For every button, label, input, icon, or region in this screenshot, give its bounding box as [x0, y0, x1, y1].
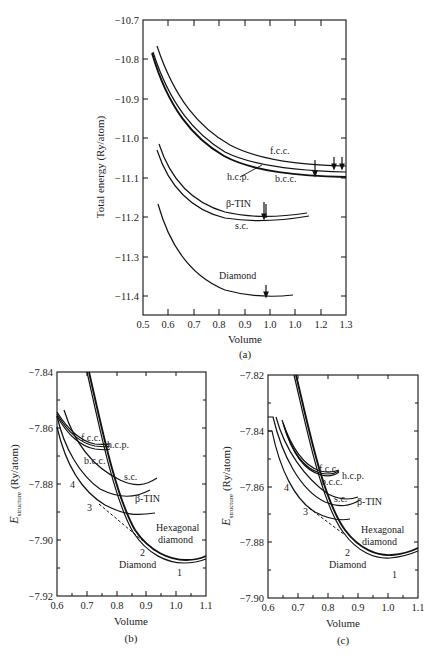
svg-text:−10.9: −10.9 [115, 94, 139, 105]
svg-text:−7.92: −7.92 [29, 591, 53, 602]
svg-text:1.3: 1.3 [339, 319, 352, 330]
label-1-b: 1 [177, 567, 182, 578]
label-hcp-a: h.c.p. [227, 171, 249, 182]
svg-text:0.8: 0.8 [110, 600, 123, 611]
svg-text:−7.86: −7.86 [240, 482, 264, 493]
figure: −10.7 −10.8 −10.9 −11.0 −11.1 −11.2 −11.… [0, 0, 438, 656]
svg-text:−7.84: −7.84 [240, 426, 265, 437]
label-hexagonal-b: Hexagonal [156, 522, 200, 533]
x-axis-title-c: Volume [326, 617, 360, 629]
x-tick-labels-a: 0.5 0.6 0.7 0.8 0.9 1.0 1.0 1.2 1.3 [136, 319, 352, 330]
svg-text:−11.3: −11.3 [115, 252, 139, 263]
label-1-c: 1 [392, 569, 397, 580]
label-btin-b: β-TIN [135, 493, 160, 504]
x-axis-title-b: Volume [114, 615, 148, 627]
x-tick-labels-b: 0.6 0.7 0.8 0.9 1.0 1.1 [50, 600, 212, 611]
svg-text:0.7: 0.7 [80, 600, 93, 611]
label-diamond-c: Diamond [329, 559, 366, 570]
panel-c: −7.82 −7.84 −7.86 −7.88 −7.90 0.6 0.7 0.… [219, 370, 425, 647]
svg-text:−7.82: −7.82 [240, 370, 264, 381]
svg-text:−11.2: −11.2 [115, 212, 139, 223]
label-3-b: 3 [87, 502, 92, 513]
curve-bcc-a [152, 53, 346, 177]
label-hexagonal-c: Hexagonal [361, 524, 405, 535]
svg-text:0.7: 0.7 [187, 319, 200, 330]
svg-text:−7.88: −7.88 [240, 537, 264, 548]
label-fcc-c: f.c.c. [319, 463, 339, 474]
curve-hcp-a [153, 52, 346, 172]
svg-text:1.0: 1.0 [381, 602, 394, 613]
y-tick-labels-a: −10.7 −10.8 −10.9 −11.0 −11.1 −11.2 −11.… [115, 15, 140, 302]
label-sc-b: s.c. [124, 471, 137, 482]
svg-text:1.2: 1.2 [314, 319, 327, 330]
y-axis-title-a: Total energy (Ry/atom) [94, 115, 107, 218]
label-bcc-a: b.c.c. [275, 173, 296, 184]
panel-a: −10.7 −10.8 −10.9 −11.0 −11.1 −11.2 −11.… [94, 15, 353, 361]
svg-text:1.0: 1.0 [288, 319, 301, 330]
label-hexagonal-diamond-c: diamond [362, 536, 397, 547]
svg-text:−7.88: −7.88 [29, 479, 53, 490]
y-axis-title-b: Estructure (Ry/atom) [7, 444, 23, 525]
svg-text:−10.7: −10.7 [115, 15, 139, 26]
label-bcc-c: b.c.c. [321, 476, 342, 487]
label-2-b: 2 [140, 547, 145, 558]
y-tick-labels-c: −7.82 −7.84 −7.86 −7.88 −7.90 [240, 370, 265, 604]
svg-text:0.8: 0.8 [321, 602, 334, 613]
label-hexagonal-diamond-b: diamond [158, 534, 193, 545]
x-tick-labels-c: 0.6 0.7 0.8 0.9 1.0 1.1 [261, 602, 424, 613]
svg-text:1.1: 1.1 [199, 600, 212, 611]
panel-b: −7.84 −7.86 −7.88 −7.90 −7.92 0.6 0.7 0.… [7, 367, 213, 645]
y-tick-labels-b: −7.84 −7.86 −7.88 −7.90 −7.92 [29, 367, 54, 602]
svg-text:0.6: 0.6 [261, 602, 274, 613]
label-fcc-a: f.c.c. [270, 145, 290, 156]
svg-text:1.0: 1.0 [263, 319, 276, 330]
svg-text:−7.86: −7.86 [29, 423, 53, 434]
label-fcc-b: f.c.c. [81, 432, 101, 443]
svg-text:0.6: 0.6 [50, 600, 63, 611]
svg-text:−7.84: −7.84 [29, 367, 54, 378]
curve-fcc-a [157, 46, 346, 166]
panel-label-c: (c) [337, 634, 350, 647]
svg-text:1.1: 1.1 [411, 602, 424, 613]
svg-text:0.5: 0.5 [136, 319, 149, 330]
svg-text:0.7: 0.7 [291, 602, 304, 613]
label-btin-a: β-TIN [226, 198, 251, 209]
svg-text:0.9: 0.9 [139, 600, 152, 611]
label-sc-c: s.c. [334, 493, 347, 504]
common-tangent-b [99, 504, 143, 541]
svg-text:−7.90: −7.90 [29, 535, 53, 546]
label-2-c: 2 [345, 547, 350, 558]
svg-text:−11.0: −11.0 [115, 133, 139, 144]
label-diamond-a: Diamond [219, 270, 256, 281]
svg-text:0.6: 0.6 [161, 319, 174, 330]
label-4-b: 4 [70, 479, 75, 490]
svg-text:−11.4: −11.4 [115, 291, 140, 302]
svg-text:0.8: 0.8 [212, 319, 225, 330]
x-axis-title-a: Volume [228, 333, 262, 345]
panel-label-a: (a) [239, 348, 252, 361]
label-hcp-c: h.c.p. [342, 470, 364, 481]
label-3-c: 3 [303, 506, 308, 517]
label-4-c: 4 [284, 482, 289, 493]
svg-text:0.9: 0.9 [238, 319, 251, 330]
svg-text:1.0: 1.0 [169, 600, 182, 611]
label-btin-c: β-TIN [357, 496, 382, 507]
svg-text:−11.1: −11.1 [115, 173, 139, 184]
label-diamond-b: Diamond [119, 559, 156, 570]
svg-text:−10.8: −10.8 [115, 54, 139, 65]
label-hcp-b: h.c.p. [107, 439, 129, 450]
svg-text:0.9: 0.9 [351, 602, 364, 613]
y-axis-title-c: Estructure (Ry/atom) [219, 446, 235, 527]
label-sc-a: s.c. [235, 220, 248, 231]
panel-label-b: (b) [125, 632, 138, 645]
svg-text:−7.90: −7.90 [240, 593, 264, 604]
label-bcc-b: b.c.c. [84, 455, 105, 466]
